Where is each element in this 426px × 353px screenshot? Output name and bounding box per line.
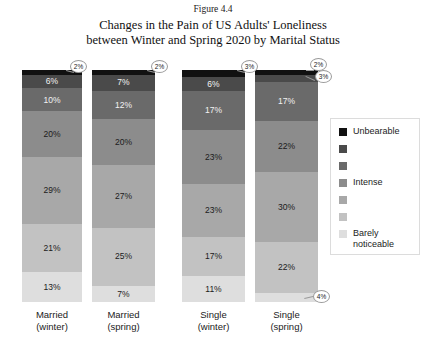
legend-item-label: Barely noticeable	[353, 228, 394, 250]
callout-label[interactable]: 2%	[70, 60, 87, 73]
legend-swatch-icon	[339, 179, 347, 187]
legend-item[interactable]	[339, 143, 419, 160]
bar-segment[interactable]: 27%	[92, 165, 155, 228]
bar-segment[interactable]: 6%	[182, 77, 245, 91]
callout-label[interactable]: 4%	[313, 290, 330, 303]
legend-swatch-icon	[339, 196, 347, 204]
bar-segment[interactable]: 17%	[182, 91, 245, 130]
bar-segment[interactable]: 25%	[92, 228, 155, 286]
x-axis-label-line: Single	[243, 309, 330, 321]
legend-item[interactable]	[339, 194, 419, 211]
callout-label[interactable]: 3%	[241, 60, 258, 73]
bar-segment[interactable]: 7%	[92, 286, 155, 302]
legend-item[interactable]: Unbearable	[339, 126, 419, 143]
bar-single-winter[interactable]: 6%17%23%23%17%11%	[182, 70, 245, 302]
bar-segment[interactable]	[182, 70, 245, 77]
chart-legend: UnbearableIntenseBarely noticeable	[330, 118, 420, 255]
bar-segment[interactable]: 6%	[22, 75, 82, 89]
bar-segment[interactable]: 17%	[255, 82, 318, 121]
bar-single-spring[interactable]: 17%22%30%22%	[255, 70, 318, 302]
x-axis-label: Married(spring)	[80, 309, 167, 333]
x-axis-label-line: (spring)	[80, 321, 167, 333]
legend-item[interactable]: Intense	[339, 177, 419, 194]
bar-segment[interactable]: 30%	[255, 172, 318, 242]
bar-segment[interactable]: 23%	[182, 130, 245, 183]
bar-segment[interactable]: 20%	[92, 119, 155, 165]
bar-married-winter[interactable]: 6%10%20%29%21%13%	[22, 70, 82, 302]
legend-item-label: Intense	[353, 177, 383, 188]
legend-swatch-icon	[339, 162, 347, 170]
callout-label[interactable]: 3%	[315, 70, 332, 83]
legend-item[interactable]	[339, 211, 419, 228]
bar-married-spring[interactable]: 7%12%20%27%25%7%	[92, 70, 155, 302]
bar-segment[interactable]: 11%	[182, 276, 245, 302]
bar-segment[interactable]: 21%	[22, 224, 82, 272]
bar-segment[interactable]: 22%	[255, 121, 318, 172]
x-axis-label: Single(spring)	[243, 309, 330, 333]
bar-segment[interactable]: 7%	[92, 75, 155, 91]
legend-swatch-icon	[339, 145, 347, 153]
x-axis-label-line: Married	[80, 309, 167, 321]
bar-segment[interactable]: 20%	[22, 111, 82, 157]
bar-segment[interactable]: 23%	[182, 184, 245, 237]
legend-swatch-icon	[339, 128, 347, 136]
x-axis-label-line: (spring)	[243, 321, 330, 333]
bar-segment[interactable]: 29%	[22, 157, 82, 224]
bar-segment[interactable]: 13%	[22, 272, 82, 302]
legend-item[interactable]: Barely noticeable	[339, 228, 419, 254]
bar-segment[interactable]: 10%	[22, 88, 82, 111]
callout-leader-line	[306, 70, 314, 71]
legend-item-label: Unbearable	[353, 126, 400, 137]
legend-swatch-icon	[339, 213, 347, 221]
legend-swatch-icon	[339, 230, 347, 238]
legend-item[interactable]	[339, 160, 419, 177]
bar-segment[interactable]: 22%	[255, 242, 318, 293]
bar-segment[interactable]: 12%	[92, 91, 155, 119]
bar-segment[interactable]: 17%	[182, 237, 245, 276]
callout-label[interactable]: 2%	[151, 60, 168, 73]
